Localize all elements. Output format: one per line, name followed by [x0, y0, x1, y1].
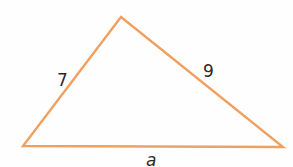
side-base-label: a [146, 150, 156, 167]
side-left-label: 7 [57, 70, 68, 90]
triangle-figure: 7 9 a [0, 0, 293, 167]
side-right-label: 9 [203, 61, 214, 81]
triangle-diagram: 7 9 a [0, 0, 293, 167]
